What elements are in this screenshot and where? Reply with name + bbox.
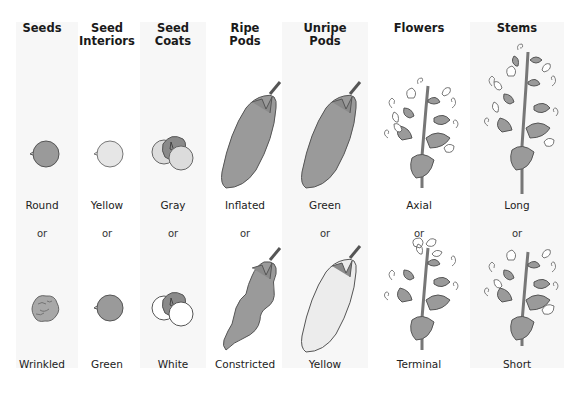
recessive-label: Constricted	[206, 358, 284, 370]
gray-seed-coat-figure	[149, 130, 199, 174]
dominant-label: Round	[10, 199, 74, 211]
recessive-label: Green	[72, 358, 142, 370]
yellow-pod-figure	[294, 246, 364, 352]
dominant-label: Yellow	[72, 199, 142, 211]
trait-column-seed-interiors: SeedInteriors Yellow or Green	[72, 0, 142, 398]
yellow-seed-figure	[90, 138, 124, 168]
trait-header: SeedInteriors	[72, 22, 142, 48]
trait-header: Stems	[470, 22, 564, 35]
trait-header: SeedCoats	[140, 22, 206, 48]
or-separator: or	[282, 228, 368, 239]
inflated-pod-figure	[214, 78, 284, 188]
green-pod-figure	[294, 78, 364, 188]
dominant-label: Long	[470, 199, 564, 211]
recessive-label: Yellow	[282, 358, 368, 370]
trait-header: Seeds	[10, 22, 74, 35]
trait-header: Flowers	[368, 22, 470, 35]
trait-column-seed-coats: SeedCoats Gray or White	[140, 0, 206, 398]
or-separator: or	[368, 228, 470, 239]
trait-column-seeds: Seeds Round or Wrinkled	[10, 0, 74, 398]
long-stem-figure	[482, 46, 558, 196]
trait-column-flowers: Flowers Axial or Terminal	[368, 0, 470, 398]
dominant-label: Green	[282, 199, 368, 211]
recessive-label: Wrinkled	[10, 358, 74, 370]
round-seed-figure	[26, 138, 60, 168]
trait-column-stems: Stems Long or Short	[470, 0, 564, 398]
or-separator: or	[10, 228, 74, 239]
trait-column-unripe-pods: UnripePods Green or Yellow	[282, 0, 368, 398]
constricted-pod-figure	[214, 248, 284, 352]
recessive-label: Terminal	[368, 358, 470, 370]
axial-flower-figure	[382, 78, 458, 190]
terminal-flower-figure	[382, 240, 458, 352]
white-seed-coat-figure	[149, 286, 199, 330]
trait-header: UnripePods	[282, 22, 368, 48]
or-separator: or	[470, 228, 564, 239]
trait-header: RipePods	[206, 22, 284, 48]
or-separator: or	[206, 228, 284, 239]
or-separator: or	[140, 228, 206, 239]
wrinkled-seed-figure	[26, 292, 60, 322]
dominant-label: Inflated	[206, 199, 284, 211]
dominant-label: Axial	[368, 199, 470, 211]
dominant-label: Gray	[140, 199, 206, 211]
or-separator: or	[72, 228, 142, 239]
trait-column-ripe-pods: RipePods Inflated or Constricted	[206, 0, 284, 398]
short-stem-figure	[482, 244, 558, 348]
recessive-label: White	[140, 358, 206, 370]
recessive-label: Short	[470, 358, 564, 370]
green-seed-figure	[90, 292, 124, 322]
